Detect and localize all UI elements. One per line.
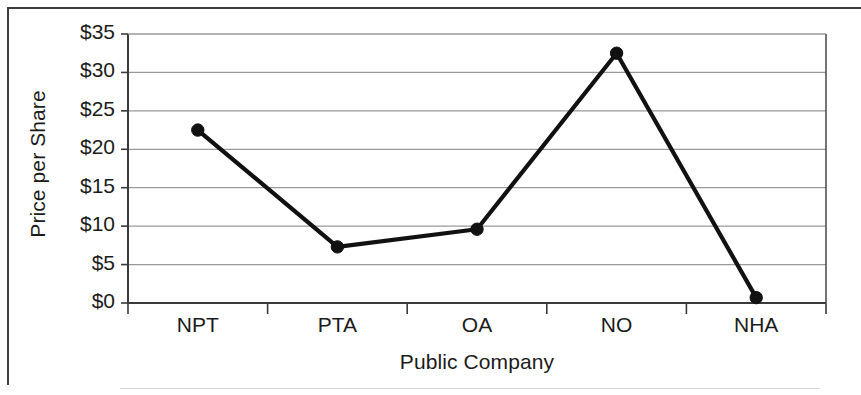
- series-polyline: [198, 53, 756, 297]
- data-point-no: [610, 47, 622, 59]
- axis-lines: [128, 34, 826, 303]
- line-chart-figure: Price per Share Public Company $0$5$10$1…: [0, 0, 861, 395]
- data-series-markers: [192, 47, 763, 304]
- data-point-nha: [750, 291, 762, 303]
- data-point-npt: [192, 124, 204, 136]
- data-point-pta: [331, 241, 343, 253]
- data-series-line: [198, 53, 756, 297]
- axis-tick-marks: [121, 34, 826, 314]
- data-point-oa: [471, 223, 483, 235]
- chart-page: Price per Share Public Company $0$5$10$1…: [0, 0, 861, 395]
- plot-area: [0, 0, 861, 395]
